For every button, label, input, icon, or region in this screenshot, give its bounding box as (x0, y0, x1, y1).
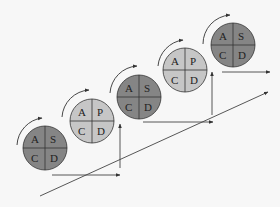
pdca-diagram: A S C D A P C D A S C D A P C D (0, 0, 280, 207)
quadrant-d: D (97, 125, 105, 137)
quadrant-d: D (50, 152, 58, 164)
quadrant-a: A (125, 82, 133, 94)
quadrant-p: P (190, 55, 196, 67)
quadrant-s: S (144, 82, 150, 94)
quadrant-c: C (171, 74, 178, 86)
quadrant-c: C (31, 152, 38, 164)
quadrant-c: C (78, 125, 85, 137)
quadrant-a: A (171, 55, 179, 67)
pdca-cycle-2: A P C D (62, 90, 114, 143)
pdca-cycle-5: A S C D (203, 15, 255, 67)
quadrant-c: C (219, 49, 226, 61)
quadrant-a: A (31, 133, 39, 145)
pdca-cycle-4: A P C D (158, 40, 207, 92)
quadrant-d: D (190, 74, 198, 86)
quadrant-a: A (78, 106, 86, 118)
pdca-cycle-3: A S C D (110, 66, 161, 119)
quadrant-c: C (125, 101, 132, 113)
pdca-cycle-1: A S C D (17, 118, 67, 170)
quadrant-d: D (144, 101, 152, 113)
quadrant-s: S (238, 30, 244, 42)
quadrant-s: S (50, 133, 56, 145)
quadrant-a: A (219, 30, 227, 42)
quadrant-p: P (97, 106, 103, 118)
quadrant-d: D (238, 49, 246, 61)
